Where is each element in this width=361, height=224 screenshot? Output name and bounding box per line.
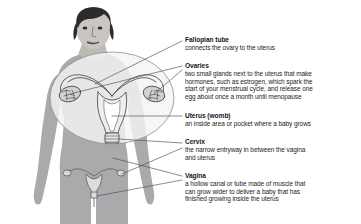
label-block-ovaries: Ovaries two small glands next to the ute… (185, 62, 361, 101)
label-line: two small glands next to the uterus that… (185, 70, 361, 78)
label-line: a hollow canal or tube made of muscle th… (185, 180, 361, 188)
right-thigh (96, 186, 127, 224)
label-body-vagina: a hollow canal or tube made of muscle th… (185, 180, 361, 203)
label-title-vagina: Vagina (185, 172, 361, 180)
cervix-body (105, 133, 119, 143)
left-thigh (61, 186, 91, 224)
label-title-cervix: Cervix (185, 138, 361, 146)
label-line: an inside area or pocket where a baby gr… (185, 120, 361, 128)
small-left-ovary (63, 170, 71, 176)
label-list: Fallopian tube connects the ovary to the… (185, 0, 361, 224)
label-line: finished growing inside the uterus (185, 195, 361, 203)
cervix (105, 133, 119, 143)
label-line: can grow wider to deliver a baby that ha… (185, 188, 361, 196)
label-body-uterus: an inside area or pocket where a baby gr… (185, 120, 361, 128)
label-title-fallopian-tube: Fallopian tube (185, 36, 361, 44)
label-title-uterus: Uterus (womb) (185, 112, 361, 120)
label-block-vagina: Vagina a hollow canal or tube made of mu… (185, 172, 361, 203)
diagram-canvas: Fallopian tube connects the ovary to the… (0, 0, 361, 224)
right-eye (98, 27, 103, 30)
label-block-fallopian-tube: Fallopian tube connects the ovary to the… (185, 36, 361, 52)
label-line: start of your menstrual cycle, and relea… (185, 85, 361, 93)
label-title-ovaries: Ovaries (185, 62, 361, 70)
label-line: hormones, such as estrogen, which spark … (185, 78, 361, 86)
label-body-fallopian-tube: connects the ovary to the uterus (185, 44, 361, 52)
label-body-ovaries: two small glands next to the uterus that… (185, 70, 361, 100)
label-line: and uterus (185, 154, 361, 162)
label-block-uterus: Uterus (womb) an inside area or pocket w… (185, 112, 361, 128)
label-line: egg about once a month until menopause (185, 93, 361, 101)
label-block-cervix: Cervix the narrow entryway in between th… (185, 138, 361, 161)
label-line: the narrow entryway in between the vagin… (185, 146, 361, 154)
label-line: connects the ovary to the uterus (185, 44, 361, 52)
label-body-cervix: the narrow entryway in between the vagin… (185, 146, 361, 161)
left-eye (83, 27, 88, 30)
